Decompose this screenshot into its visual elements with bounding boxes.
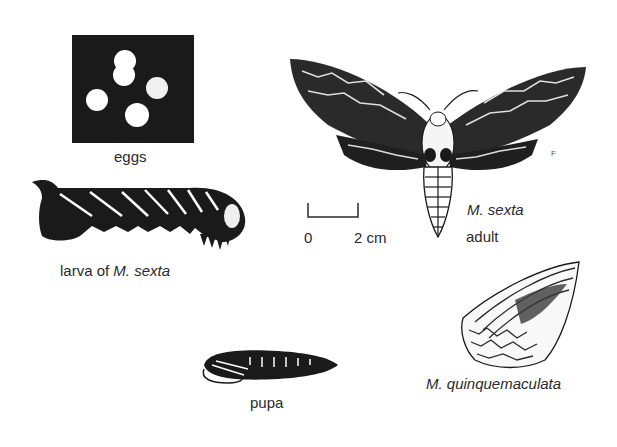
egg: [146, 77, 168, 99]
adult-label: adult: [466, 228, 499, 245]
larva-species: M. sexta: [113, 262, 170, 279]
scale-end-label: 2 cm: [354, 229, 387, 246]
eggs-illustration: [72, 35, 196, 145]
quinquemaculata-label: M. quinquemaculata: [426, 375, 561, 392]
pupa-label: pupa: [250, 394, 283, 411]
egg: [86, 89, 108, 111]
scale-start-label: 0: [304, 229, 312, 246]
adult-species-label: M. sexta: [467, 201, 524, 218]
quinquemaculata-wing-illustration: [455, 260, 585, 375]
larva-label: larva of M. sexta: [60, 262, 170, 279]
larva-illustration: [30, 176, 260, 256]
pupa-illustration: [198, 343, 348, 393]
egg: [113, 64, 135, 86]
artist-mark: F: [551, 149, 556, 158]
egg: [125, 103, 149, 127]
scale-bar: [307, 203, 361, 219]
eggs-label: eggs: [114, 148, 147, 165]
